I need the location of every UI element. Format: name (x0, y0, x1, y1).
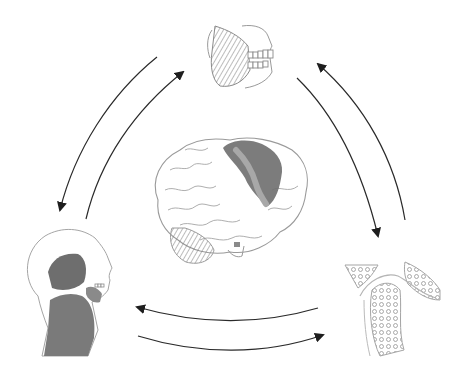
arrow-joint-to-headneck (137, 307, 318, 321)
jaw-masseter-illustration (208, 25, 273, 88)
arrow-joint-to-jaw (318, 64, 405, 220)
head-neck-illustration (27, 229, 112, 356)
joint-bone-illustration (345, 262, 440, 356)
cycle-diagram (0, 0, 467, 379)
arrow-headneck-to-joint (138, 335, 323, 350)
arrow-jaw-to-headneck (60, 57, 157, 210)
brain-illustration (155, 138, 307, 263)
arrow-jaw-to-joint (297, 78, 378, 236)
